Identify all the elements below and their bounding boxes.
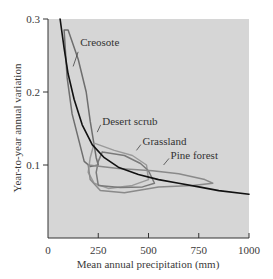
x-tick-label: 750 — [191, 244, 208, 256]
x-tick-label: 500 — [140, 244, 157, 256]
y-axis-title: Year-to-year annual variation — [11, 63, 23, 192]
chart: 025050075010000.10.20.3 CreosoteDesert s… — [0, 0, 273, 279]
creosote-label: Creosote — [80, 36, 119, 48]
y-tick-label: 0.2 — [26, 86, 40, 98]
pine-forest-label: Pine forest — [171, 149, 218, 161]
x-tick-label: 0 — [45, 244, 51, 256]
grassland-label: Grassland — [142, 135, 186, 147]
x-tick-label: 1000 — [238, 244, 261, 256]
x-axis-title: Mean annual precipitation (mm) — [77, 258, 220, 271]
y-tick-label: 0.3 — [26, 13, 40, 25]
x-tick-label: 250 — [90, 244, 107, 256]
y-tick-label: 0.1 — [26, 159, 40, 171]
desert-scrub-label: Desert scrub — [102, 115, 158, 127]
